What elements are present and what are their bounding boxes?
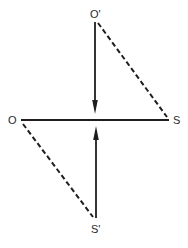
- label-s-prime: S': [91, 223, 100, 235]
- label-o-prime: O': [90, 8, 101, 20]
- label-s: S: [173, 114, 180, 126]
- diagram-canvas: O S O' S': [0, 0, 188, 248]
- s-prime-arrow: [93, 126, 99, 218]
- arrowhead-down-icon: [92, 100, 98, 114]
- label-o: O: [8, 114, 17, 126]
- o-s-prime-dashed-line: [23, 124, 93, 217]
- o-prime-arrow: [92, 22, 98, 114]
- o-prime-s-dashed-line: [98, 23, 167, 117]
- arrowhead-up-icon: [93, 126, 99, 140]
